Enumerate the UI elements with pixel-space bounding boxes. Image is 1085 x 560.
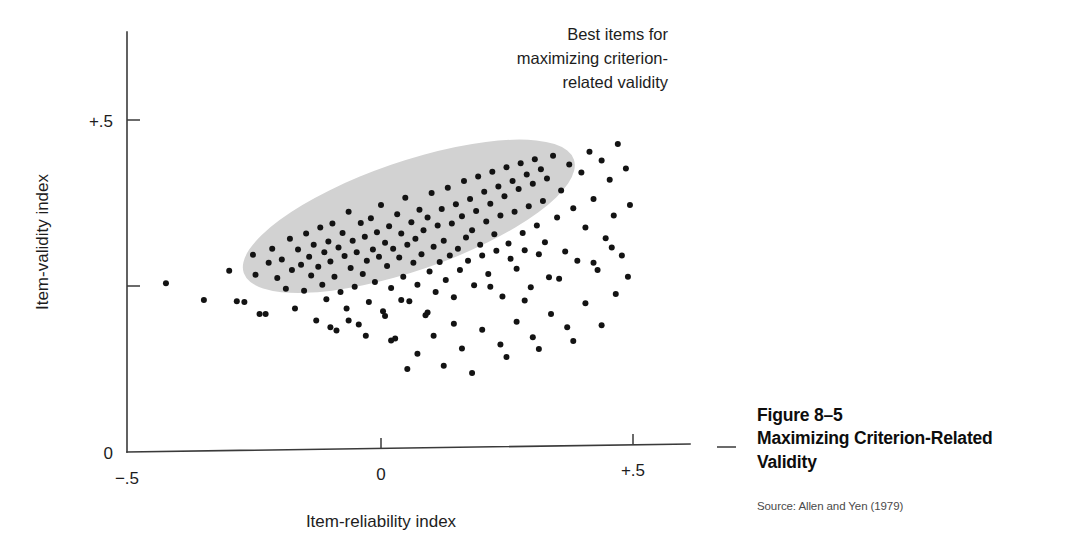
data-point: [406, 298, 412, 304]
data-point: [613, 291, 619, 297]
data-point: [306, 254, 312, 260]
data-point: [311, 242, 317, 248]
data-point: [425, 215, 431, 221]
data-point: [263, 311, 269, 317]
data-point: [372, 279, 378, 285]
figure-caption-block: Figure 8–5 Maximizing Criterion-Related …: [757, 404, 1057, 512]
data-point: [536, 251, 542, 257]
data-point: [615, 141, 621, 147]
data-point: [554, 215, 560, 221]
data-point: [414, 282, 420, 288]
data-point: [279, 256, 285, 262]
data-point: [329, 221, 335, 227]
figure-title-line-1: Maximizing Criterion-Related: [757, 427, 1057, 450]
data-point: [465, 258, 471, 264]
annotation-line-3: related validity: [563, 73, 669, 91]
data-point: [348, 265, 354, 271]
data-point: [485, 271, 491, 277]
data-point: [534, 223, 540, 229]
data-point: [358, 220, 364, 226]
data-point: [530, 181, 536, 187]
data-point: [501, 193, 507, 199]
data-point: [522, 247, 528, 253]
data-point: [303, 231, 309, 237]
data-point: [396, 254, 402, 260]
data-point: [295, 246, 301, 252]
data-point: [368, 215, 374, 221]
data-point: [548, 311, 554, 317]
data-point: [455, 246, 461, 252]
data-point: [342, 253, 348, 259]
data-point: [493, 248, 499, 254]
data-point: [289, 267, 295, 273]
data-point: [489, 169, 495, 175]
data-point: [388, 285, 394, 291]
data-point: [503, 164, 509, 170]
data-point: [336, 244, 342, 250]
data-point: [408, 219, 414, 225]
data-point: [378, 202, 384, 208]
data-point: [382, 313, 388, 319]
data-point: [421, 227, 427, 233]
data-point: [354, 249, 360, 255]
data-point: [370, 246, 376, 252]
data-point: [516, 186, 522, 192]
data-point: [374, 229, 380, 235]
data-point: [441, 238, 447, 244]
data-point: [520, 230, 526, 236]
data-point: [308, 272, 314, 278]
data-point: [350, 238, 356, 244]
data-point: [356, 322, 362, 328]
data-point: [453, 201, 459, 207]
data-point: [524, 171, 530, 177]
data-point: [479, 252, 485, 258]
data-point: [542, 239, 548, 245]
data-point: [441, 363, 447, 369]
data-point: [508, 256, 514, 262]
data-point: [522, 298, 528, 304]
data-point: [429, 190, 435, 196]
data-point: [325, 239, 331, 245]
data-point: [363, 333, 369, 339]
data-point: [469, 370, 475, 376]
data-point: [459, 345, 465, 351]
data-point: [627, 202, 633, 208]
data-point: [566, 161, 572, 167]
data-point: [437, 259, 443, 265]
data-point: [226, 268, 232, 274]
data-point: [388, 337, 394, 343]
data-point: [427, 268, 433, 274]
data-point: [586, 149, 592, 155]
data-point: [331, 274, 337, 280]
x-tick-label-mid: 0: [376, 465, 385, 484]
y-tick-label-top: +.5: [89, 112, 113, 131]
data-point: [435, 223, 441, 229]
data-point: [469, 227, 475, 233]
data-point: [611, 213, 617, 219]
data-point: [449, 221, 455, 227]
best-items-annotation: Best items for maximizing criterion- rel…: [517, 25, 669, 91]
data-point: [201, 297, 207, 303]
data-point: [483, 219, 489, 225]
data-point: [514, 319, 520, 325]
annotation-line-1: Best items for: [567, 25, 668, 43]
data-point: [250, 252, 256, 258]
data-point: [487, 201, 493, 207]
x-tick-label-left: −.5: [115, 469, 139, 488]
data-point: [390, 246, 396, 252]
data-point: [457, 267, 463, 273]
data-point: [384, 263, 390, 269]
data-point: [463, 235, 469, 241]
data-point: [623, 165, 629, 171]
best-items-ellipse-group: [226, 108, 592, 325]
data-point: [400, 274, 406, 280]
data-point: [591, 196, 597, 202]
data-point: [528, 284, 534, 290]
data-point: [497, 341, 503, 347]
data-point: [512, 209, 518, 215]
data-point: [439, 206, 445, 212]
data-point: [479, 327, 485, 333]
data-point: [410, 260, 416, 266]
data-point: [431, 244, 437, 250]
data-point: [386, 223, 392, 229]
